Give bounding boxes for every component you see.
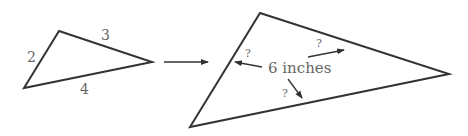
unknown-label-bottom: ? bbox=[282, 87, 288, 100]
arrow-top-icon bbox=[308, 50, 344, 57]
large-triangle: 6 inches ? ? ? bbox=[190, 13, 449, 127]
similar-triangles-diagram: 2 3 4 6 inches ? ? ? bbox=[0, 0, 468, 136]
arrow-bottom-icon bbox=[288, 79, 302, 98]
unknown-label-top: ? bbox=[316, 37, 322, 50]
small-triangle-outline bbox=[24, 31, 152, 88]
side-label-left: 2 bbox=[27, 49, 36, 65]
known-side-label: 6 inches bbox=[268, 59, 331, 77]
arrow-left-icon bbox=[235, 62, 262, 67]
small-triangle: 2 3 4 bbox=[24, 27, 152, 97]
unknown-label-left: ? bbox=[245, 47, 251, 60]
side-label-top: 3 bbox=[101, 27, 110, 43]
side-label-bottom: 4 bbox=[80, 81, 89, 97]
